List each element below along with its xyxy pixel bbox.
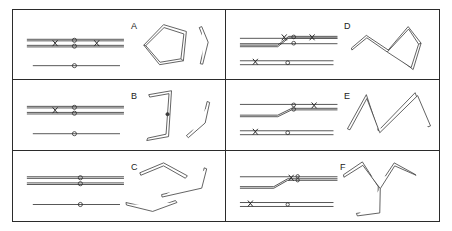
panel-f: F bbox=[226, 151, 439, 221]
panel-d-schematic bbox=[240, 34, 338, 64]
panel-b-schematic bbox=[27, 106, 124, 136]
panel-e-label: E bbox=[344, 92, 350, 101]
panel-d-cross-b bbox=[310, 34, 315, 40]
panel-c-schematic bbox=[27, 175, 124, 206]
panel-b: B bbox=[13, 80, 226, 150]
panel-f-graphics bbox=[226, 151, 439, 221]
panel-c-shape-upper-bend bbox=[140, 163, 188, 178]
panel-a-schematic bbox=[27, 38, 124, 67]
panel-c: C bbox=[13, 151, 226, 221]
panel-b-shape-bracket-hook bbox=[147, 91, 172, 141]
panel-d-cross-a bbox=[282, 34, 287, 40]
panel-d: D bbox=[226, 10, 439, 80]
panel-d-graphics bbox=[226, 10, 439, 79]
panel-e-cross-lower bbox=[253, 129, 258, 135]
panel-c-shape-lower-bend bbox=[126, 200, 177, 211]
panel-b-label: B bbox=[131, 92, 137, 101]
panel-c-label: C bbox=[131, 163, 138, 172]
figure-root: A bbox=[0, 0, 452, 231]
panel-e: E bbox=[226, 80, 439, 150]
panel-a-shape-triangle-loop bbox=[144, 25, 187, 65]
panel-a: A bbox=[13, 10, 226, 80]
panel-f-cross-upper bbox=[289, 174, 294, 180]
panel-a-label: A bbox=[131, 22, 137, 31]
panel-e-shape-zigzag bbox=[347, 93, 430, 133]
panel-d-label: D bbox=[344, 22, 351, 31]
panel-a-shape-bent-rod bbox=[199, 27, 208, 65]
panel-f-schematic bbox=[240, 174, 338, 206]
panel-f-shape-y-fork bbox=[343, 162, 416, 216]
panel-f-label: F bbox=[340, 163, 346, 172]
panel-e-cross-upper bbox=[312, 103, 317, 109]
panel-c-graphics bbox=[13, 151, 225, 221]
panel-b-shape-v-rod bbox=[186, 102, 209, 138]
panel-e-schematic bbox=[240, 103, 338, 135]
panel-d-cross-c bbox=[253, 59, 258, 65]
panel-grid: A bbox=[12, 9, 440, 222]
panel-b-graphics bbox=[13, 80, 225, 149]
panel-a-graphics bbox=[13, 10, 225, 79]
panel-f-cross-lower bbox=[248, 200, 253, 206]
panel-e-graphics bbox=[226, 80, 439, 149]
panel-d-shape-teardrop-loop bbox=[351, 27, 421, 70]
